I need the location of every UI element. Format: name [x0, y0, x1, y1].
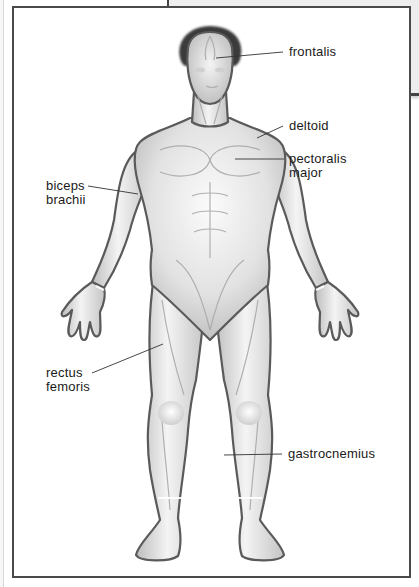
left-hand	[62, 282, 105, 340]
body	[62, 26, 359, 560]
label-deltoid: deltoid	[289, 119, 329, 133]
label-pectoralis-major: pectoralis major	[289, 152, 347, 180]
leader-line-gastrocnemius	[224, 454, 282, 455]
page: frontalis deltoid pectoralis major bicep…	[0, 0, 419, 587]
label-biceps-brachii: biceps brachii	[46, 179, 86, 207]
label-frontalis: frontalis	[289, 45, 336, 59]
right-hand	[315, 282, 358, 340]
muscle-figure-illustration	[0, 0, 419, 587]
label-gastrocnemius: gastrocnemius	[288, 447, 375, 461]
label-rectus-femoris: rectus femoris	[46, 366, 90, 394]
knees	[158, 401, 262, 425]
head	[187, 32, 233, 104]
